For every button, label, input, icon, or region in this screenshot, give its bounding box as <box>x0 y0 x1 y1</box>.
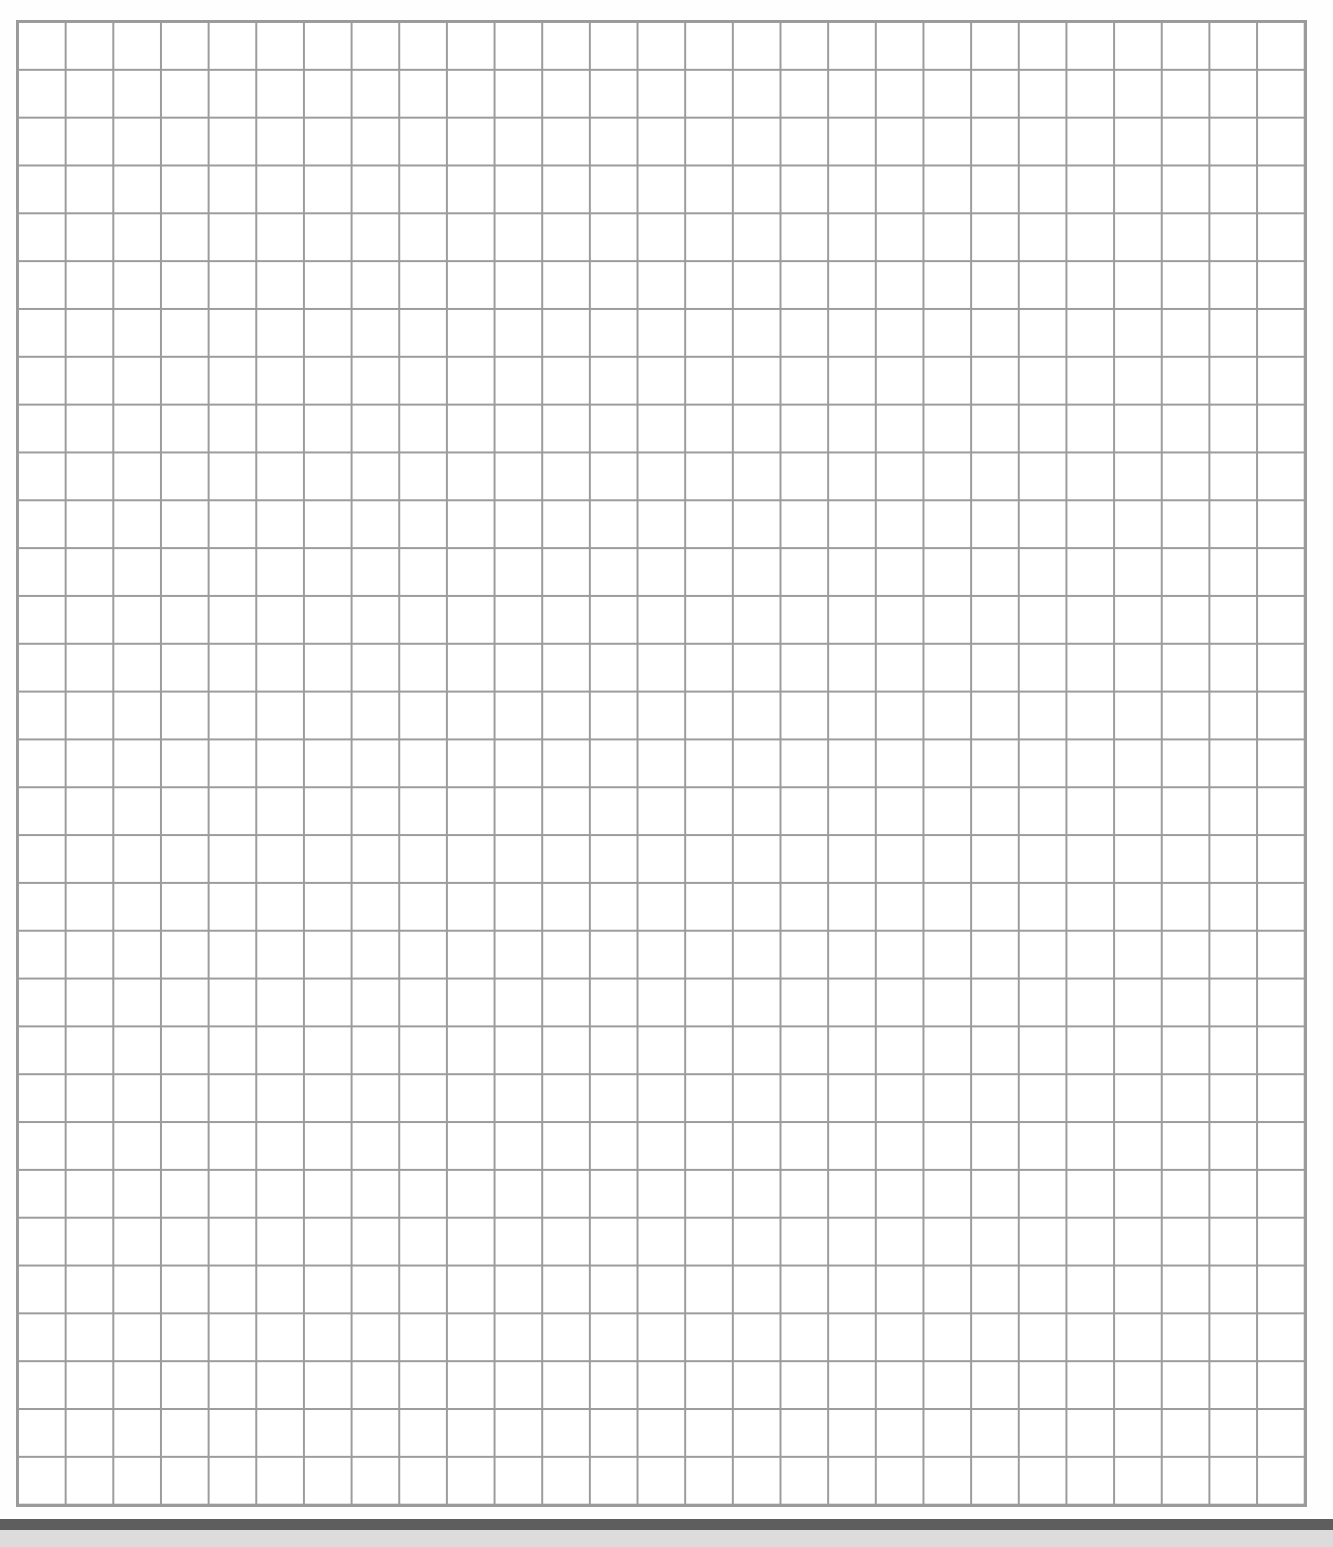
sheet-bottom-edge-shadow <box>0 1519 1333 1530</box>
graph-paper-grid <box>16 20 1307 1507</box>
scanner-background <box>0 1530 1333 1547</box>
paper-sheet <box>0 0 1333 1517</box>
